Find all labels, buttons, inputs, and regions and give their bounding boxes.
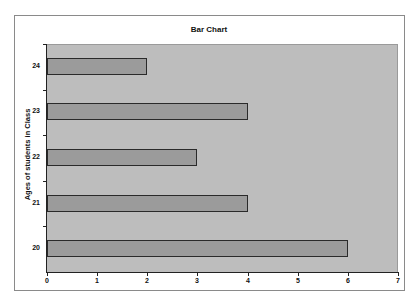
y-axis — [46, 44, 47, 273]
bar-22 — [47, 149, 197, 166]
y-tick-label: 24 — [20, 62, 40, 69]
bar-21 — [47, 195, 248, 212]
x-tick-label: 4 — [242, 277, 254, 284]
y-tick-label: 20 — [20, 244, 40, 251]
chart-title: Bar Chart — [0, 25, 418, 34]
x-tick-label: 7 — [392, 277, 404, 284]
x-tick-label: 6 — [342, 277, 354, 284]
x-tick-label: 0 — [41, 277, 53, 284]
x-tick-label: 3 — [191, 277, 203, 284]
x-tick-label: 5 — [292, 277, 304, 284]
x-axis — [46, 272, 399, 273]
x-tick-label: 2 — [141, 277, 153, 284]
y-axis-title: Ages of students in Class — [23, 100, 32, 210]
bar-20 — [47, 240, 348, 257]
x-tick-label: 1 — [91, 277, 103, 284]
bar-24 — [47, 58, 147, 75]
bar-23 — [47, 103, 248, 120]
